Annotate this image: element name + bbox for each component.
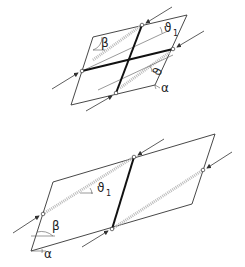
top-theta-sub: 1	[173, 29, 178, 38]
top-theta-label: ϑ	[164, 21, 171, 35]
bottom-theta-label: ϑ	[97, 181, 104, 195]
top-node-bottom	[114, 91, 118, 95]
top-node-right	[171, 47, 175, 51]
bottom-arrow-bottom-icon	[82, 231, 108, 247]
bottom-hatch-1	[43, 157, 134, 214]
bottom-beta-arc	[37, 232, 53, 236]
bottom-node-left	[41, 212, 45, 216]
bottom-alpha-label: α	[44, 247, 52, 261]
bottom-theta-sub: 1	[106, 189, 111, 198]
bottom-panel: β α ϑ 1	[13, 134, 232, 261]
bottom-node-bottom	[110, 227, 114, 231]
top-alpha-ref	[155, 85, 160, 88]
bottom-node-top	[132, 155, 136, 159]
top-arrow-right-icon	[177, 31, 204, 47]
diagram-canvas: β ϑ 1 ϑ α β α ϑ 1	[0, 0, 245, 267]
top-node-left	[80, 69, 84, 73]
top-beta-label: β	[101, 36, 109, 50]
bottom-node-right	[201, 168, 205, 172]
bottom-hatch-2	[112, 170, 203, 229]
bottom-arrow-right-icon	[207, 152, 232, 168]
bottom-thick-divider	[112, 157, 134, 229]
bottom-arrow-left-icon	[13, 216, 39, 233]
top-node-top	[140, 23, 144, 27]
top-arrow-left-icon	[52, 73, 78, 89]
top-panel: β ϑ 1 ϑ α	[52, 7, 204, 111]
bottom-beta-label: β	[52, 219, 60, 233]
top-alpha-label: α	[161, 81, 169, 95]
top-theta-arc	[160, 27, 162, 33]
